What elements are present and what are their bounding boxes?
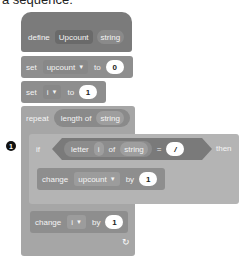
repeat-header: repeat length of string	[21, 106, 132, 130]
chevron-down-icon: ▼	[110, 176, 116, 182]
value-input[interactable]: 1	[79, 85, 97, 99]
define-keyword: define	[28, 33, 50, 42]
of-label: of	[109, 145, 116, 154]
chevron-down-icon: ▼	[76, 219, 82, 225]
param-string[interactable]: string	[97, 30, 125, 44]
annotation-marker: 1	[6, 141, 16, 151]
caption-text: a sequence:	[2, 0, 73, 7]
loop-arrow-icon: ↻	[122, 237, 130, 247]
change-keyword: change	[35, 218, 61, 227]
if-header: if	[29, 135, 43, 163]
custom-block-name: Upcount	[55, 30, 93, 44]
equals-operator: =	[157, 145, 162, 154]
equals-condition[interactable]: letter i of string = /	[52, 138, 212, 160]
variable-name: upcount	[47, 63, 75, 72]
by-label: by	[92, 218, 100, 227]
set-i-block[interactable]: set i ▼ to 1	[21, 81, 106, 103]
value-input[interactable]: 1	[139, 172, 157, 186]
then-label: then	[216, 144, 232, 153]
compare-value-input[interactable]: /	[166, 142, 184, 156]
value-input[interactable]: 1	[105, 215, 123, 229]
variable-dropdown-upcount[interactable]: upcount ▼	[74, 172, 119, 186]
variable-name: i	[47, 88, 49, 97]
reporter-label: length of	[61, 114, 92, 123]
variable-name: upcount	[78, 175, 106, 184]
by-label: by	[126, 175, 134, 184]
variable-dropdown-i[interactable]: i ▼	[43, 85, 62, 99]
param-string[interactable]: string	[120, 142, 148, 156]
if-keyword: if	[36, 145, 40, 154]
set-keyword: set	[26, 88, 37, 97]
chevron-down-icon: ▼	[78, 64, 84, 70]
change-upcount-block[interactable]: change upcount ▼ by 1	[37, 168, 165, 190]
change-keyword: change	[42, 175, 68, 184]
param-string[interactable]: string	[96, 111, 124, 125]
variable-dropdown-upcount[interactable]: upcount ▼	[43, 60, 88, 74]
chevron-down-icon: ▼	[51, 89, 57, 95]
variable-dropdown-i[interactable]: i ▼	[67, 215, 86, 229]
repeat-keyword: repeat	[26, 114, 49, 123]
value-input[interactable]: 0	[106, 60, 124, 74]
set-keyword: set	[26, 63, 37, 72]
set-upcount-block[interactable]: set upcount ▼ to 0	[21, 56, 133, 78]
to-label: to	[94, 63, 101, 72]
letter-label: letter	[71, 145, 89, 154]
define-block[interactable]: define Upcount string	[21, 12, 132, 52]
to-label: to	[67, 88, 74, 97]
length-of-reporter[interactable]: length of string	[54, 109, 130, 127]
variable-name: i	[71, 218, 73, 227]
change-i-block[interactable]: change i ▼ by 1	[30, 211, 128, 233]
index-variable-i[interactable]: i	[94, 142, 104, 156]
letter-of-reporter[interactable]: letter i of string	[64, 141, 152, 157]
